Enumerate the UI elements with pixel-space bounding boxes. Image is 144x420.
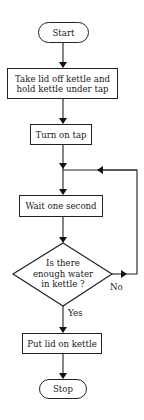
no-branch-label: No (110, 282, 123, 292)
decision-line1: Is there (23, 258, 103, 269)
stop-label: Stop (53, 384, 73, 394)
step-take-lid-off-line1: Take lid off kettle and (15, 74, 110, 84)
step-put-lid-on-label: Put lid on kettle (27, 339, 97, 349)
step-wait-one-second: Wait one second (19, 195, 103, 217)
step-take-lid-off: Take lid off kettle and hold kettle unde… (7, 68, 118, 99)
step-turn-on-tap-label: Turn on tap (35, 130, 86, 140)
decision-line2: enough water (23, 269, 103, 280)
start-terminator: Start (38, 22, 89, 43)
start-label: Start (52, 28, 74, 38)
step-turn-on-tap: Turn on tap (30, 124, 92, 145)
stop-terminator: Stop (39, 379, 87, 399)
decision-text: Is there enough water in kettle ? (23, 258, 103, 290)
step-wait-one-second-label: Wait one second (25, 201, 96, 211)
step-take-lid-off-line2: hold kettle under tap (16, 84, 108, 94)
yes-branch-label: Yes (68, 308, 82, 318)
step-put-lid-on: Put lid on kettle (22, 333, 102, 354)
decision-line3: in kettle ? (23, 279, 103, 290)
